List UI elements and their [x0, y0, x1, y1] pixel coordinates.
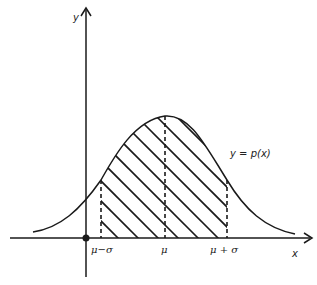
x-axis-label: x: [292, 248, 298, 259]
curve-label: y = p(x): [230, 148, 271, 159]
y-axis-label: y: [73, 12, 79, 23]
diagram-canvas: [0, 0, 317, 285]
origin-dot: [83, 235, 90, 242]
hatch-pattern: [40, 90, 317, 240]
tick-mu-minus-sigma: μ−σ: [91, 244, 113, 255]
tick-mu-plus-sigma: μ + σ: [210, 244, 238, 255]
tick-mu: μ: [161, 244, 168, 255]
normal-curve: [33, 116, 295, 234]
